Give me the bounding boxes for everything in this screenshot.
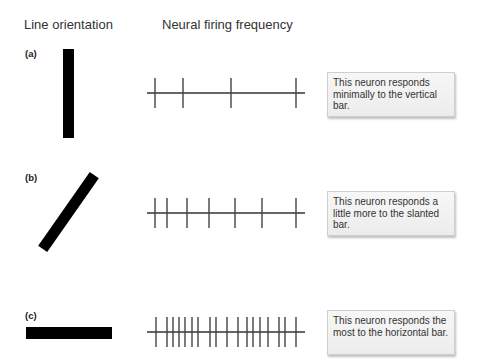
vertical-bar (63, 49, 74, 138)
spike-train-c (140, 312, 315, 352)
slanted-bar (38, 172, 99, 252)
spike-train-b (140, 193, 315, 233)
caption-box-b: This neuron responds a little more to th… (327, 191, 455, 236)
caption-box-a: This neuron responds minimally to the ve… (327, 72, 455, 117)
spike-train-a (140, 73, 315, 113)
row-label-a: (a) (25, 48, 37, 59)
header-line-orientation: Line orientation (24, 17, 113, 32)
header-firing-frequency: Neural firing frequency (162, 17, 293, 32)
row-label-c: (c) (25, 310, 37, 321)
row-label-b: (b) (25, 172, 37, 183)
caption-box-c: This neuron responds the most to the hor… (327, 310, 455, 355)
horizontal-bar (26, 327, 112, 339)
